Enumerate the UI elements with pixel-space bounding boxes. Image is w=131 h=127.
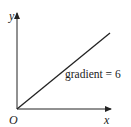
gradient-label: gradient = 6 <box>65 68 121 81</box>
x-axis-label: x <box>103 113 110 127</box>
graph-diagram: y x O gradient = 6 <box>0 0 131 127</box>
y-axis-label: y <box>8 9 15 23</box>
origin-label: O <box>9 113 18 127</box>
